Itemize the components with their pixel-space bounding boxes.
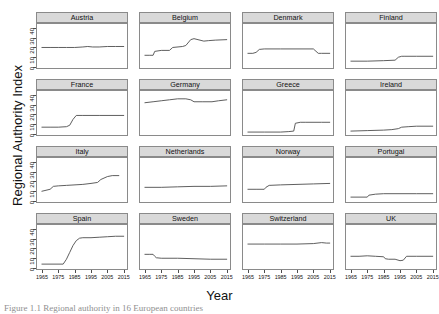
panel-plot-area bbox=[345, 23, 437, 69]
data-line bbox=[145, 254, 227, 259]
y-axis: 010203040 bbox=[6, 157, 36, 201]
x-tick-mark bbox=[400, 270, 401, 273]
y-tick-label: 30 bbox=[29, 105, 35, 112]
y-tick-mark bbox=[33, 114, 36, 115]
x-axis: 196519751985199520052015 bbox=[243, 270, 333, 284]
x-tick-mark bbox=[297, 270, 298, 273]
y-tick-label: 20 bbox=[29, 181, 35, 188]
data-line bbox=[248, 49, 330, 53]
x-tick-label: 1985 bbox=[172, 274, 184, 280]
panel-strip-label: Belgium bbox=[139, 12, 231, 23]
x-tick-label: 1985 bbox=[275, 274, 287, 280]
y-tick-mark bbox=[33, 258, 36, 259]
x-tick-label: 2005 bbox=[410, 274, 422, 280]
y-tick-mark bbox=[33, 134, 36, 135]
x-tick-label: 1995 bbox=[291, 274, 303, 280]
panel-strip-label: Germany bbox=[139, 79, 231, 90]
x-tick-mark bbox=[416, 270, 417, 273]
y-tick-label: 40 bbox=[29, 229, 35, 236]
y-tick-mark bbox=[33, 248, 36, 249]
panel-strip-label: France bbox=[36, 79, 128, 90]
x-tick-label: 1995 bbox=[394, 274, 406, 280]
x-tick-label: 1975 bbox=[258, 274, 270, 280]
x-tick-label: 1975 bbox=[361, 274, 373, 280]
facet-panel: Norway bbox=[242, 146, 334, 203]
panel-strip-label: Austria bbox=[36, 12, 128, 23]
y-tick-label: 10 bbox=[29, 57, 35, 64]
x-tick-mark bbox=[58, 270, 59, 273]
data-line bbox=[42, 176, 119, 192]
x-tick-label: 1985 bbox=[378, 274, 390, 280]
x-tick-mark bbox=[161, 270, 162, 273]
y-axis: 010203040 bbox=[6, 90, 36, 134]
data-line bbox=[351, 56, 433, 61]
x-tick-label: 2015 bbox=[324, 274, 336, 280]
x-tick-mark bbox=[264, 270, 265, 273]
x-tick-mark bbox=[178, 270, 179, 273]
panel-plot-area bbox=[242, 23, 334, 69]
panel-strip-label: Denmark bbox=[242, 12, 334, 23]
x-tick-mark bbox=[145, 270, 146, 273]
y-axis: 010203040 bbox=[6, 23, 36, 67]
y-tick-mark bbox=[33, 67, 36, 68]
data-line bbox=[145, 39, 227, 56]
panel-plot-area bbox=[36, 23, 128, 69]
y-tick-mark bbox=[33, 124, 36, 125]
x-tick-mark bbox=[227, 270, 228, 273]
panel-plot-area bbox=[345, 157, 437, 203]
panel-plot-area bbox=[36, 90, 128, 136]
data-line bbox=[248, 243, 330, 244]
y-tick-label: 10 bbox=[29, 258, 35, 265]
panel-strip-label: Spain bbox=[36, 213, 128, 224]
x-tick-mark bbox=[248, 270, 249, 273]
y-tick-mark bbox=[33, 38, 36, 39]
y-tick-mark bbox=[33, 95, 36, 96]
x-tick-label: 2005 bbox=[307, 274, 319, 280]
y-tick-mark bbox=[33, 201, 36, 202]
x-tick-mark bbox=[281, 270, 282, 273]
x-axis-title: Year bbox=[0, 288, 439, 303]
facet-panel: Belgium bbox=[139, 12, 231, 69]
x-tick-mark bbox=[351, 270, 352, 273]
y-tick-label: 40 bbox=[29, 162, 35, 169]
data-line bbox=[42, 46, 124, 47]
facet-panel: Denmark bbox=[242, 12, 334, 69]
panel-strip-label: Netherlands bbox=[139, 146, 231, 157]
y-tick-mark bbox=[33, 162, 36, 163]
x-tick-mark bbox=[107, 270, 108, 273]
panel-plot-area bbox=[242, 90, 334, 136]
facet-panel: Finland bbox=[345, 12, 437, 69]
x-tick-mark bbox=[75, 270, 76, 273]
y-tick-label: 30 bbox=[29, 38, 35, 45]
facet-panel: Spain bbox=[36, 213, 128, 270]
x-tick-mark bbox=[91, 270, 92, 273]
data-line bbox=[248, 122, 330, 132]
y-tick-mark bbox=[33, 268, 36, 269]
data-line bbox=[42, 236, 124, 264]
x-tick-mark bbox=[433, 270, 434, 273]
x-tick-label: 1995 bbox=[85, 274, 97, 280]
x-tick-label: 1985 bbox=[69, 274, 81, 280]
x-tick-mark bbox=[42, 270, 43, 273]
panel-strip-label: Italy bbox=[36, 146, 128, 157]
data-line bbox=[248, 183, 330, 189]
panel-strip-label: Greece bbox=[242, 79, 334, 90]
data-line bbox=[42, 115, 124, 127]
y-tick-mark bbox=[33, 239, 36, 240]
x-tick-mark bbox=[367, 270, 368, 273]
y-tick-label: 30 bbox=[29, 239, 35, 246]
y-tick-mark bbox=[33, 191, 36, 192]
x-tick-label: 1965 bbox=[242, 274, 254, 280]
panel-plot-area bbox=[36, 157, 128, 203]
x-tick-mark bbox=[330, 270, 331, 273]
x-tick-mark bbox=[124, 270, 125, 273]
y-axis: 010203040 bbox=[6, 224, 36, 268]
panel-plot-area bbox=[139, 90, 231, 136]
x-tick-label: 2015 bbox=[427, 274, 439, 280]
y-tick-mark bbox=[33, 105, 36, 106]
x-tick-label: 1975 bbox=[155, 274, 167, 280]
data-line bbox=[351, 194, 433, 197]
panel-strip-label: Finland bbox=[345, 12, 437, 23]
x-tick-mark bbox=[313, 270, 314, 273]
x-tick-label: 2005 bbox=[101, 274, 113, 280]
